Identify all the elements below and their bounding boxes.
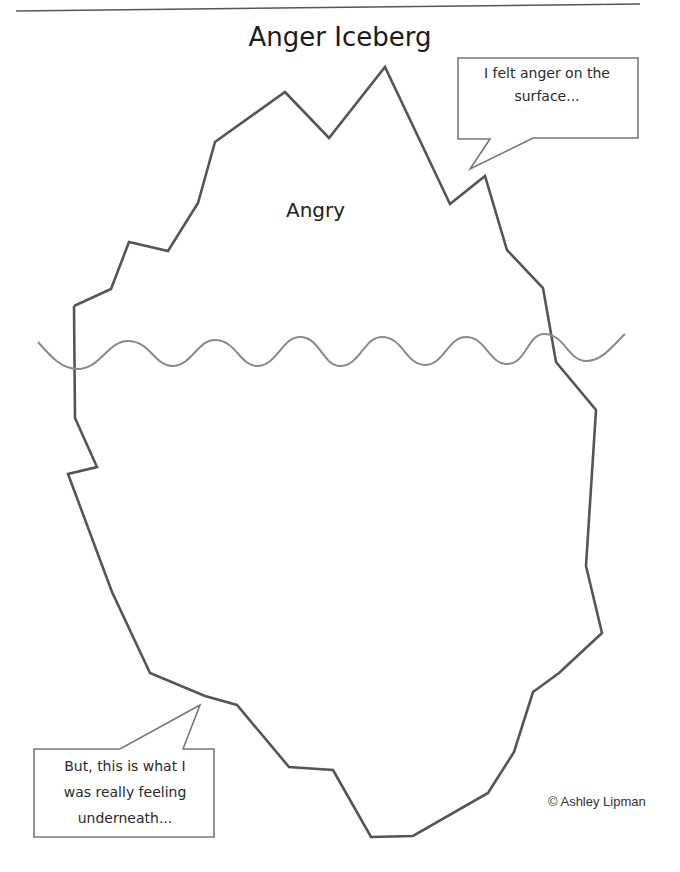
water-line <box>38 334 625 369</box>
callout-top-text: I felt anger on the surface... <box>462 62 632 108</box>
callout-bottom-line: was really feeling <box>36 779 214 805</box>
callout-bottom-text: But, this is what I was really feeling u… <box>36 753 214 831</box>
diagram-title: Anger Iceberg <box>0 22 680 52</box>
callout-bottom-line: But, this is what I <box>36 753 214 779</box>
header-rule <box>16 4 640 11</box>
iceberg-diagram <box>0 0 680 872</box>
callout-bottom-line: underneath... <box>36 805 214 831</box>
copyright-notice: © Ashley Lipman <box>548 794 646 809</box>
iceberg-outline <box>68 67 602 837</box>
surface-emotion-label: Angry <box>286 198 345 222</box>
callout-top-line: I felt anger on the <box>462 62 632 85</box>
callout-top-line: surface... <box>462 85 632 108</box>
